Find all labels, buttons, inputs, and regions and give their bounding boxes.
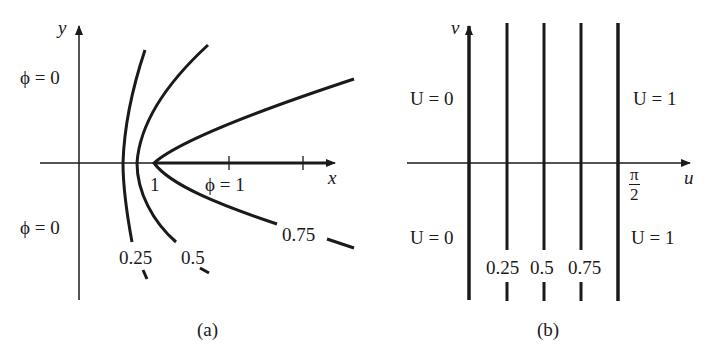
region-label-phi1: ϕ = 1 — [205, 175, 245, 194]
line-label-0.75: 0.75 — [568, 258, 601, 277]
line-label-0.5: 0.5 — [530, 258, 554, 277]
region-label-phi0-upper: ϕ = 0 — [20, 68, 60, 87]
u-axis-label: u — [684, 168, 694, 187]
curve-label-0.25: 0.25 — [119, 248, 152, 267]
y-axis-label: y — [58, 18, 66, 37]
figure-canvas — [0, 0, 712, 358]
curve-label-0.75: 0.75 — [282, 225, 315, 244]
region-label-U0-upper: U = 0 — [410, 89, 453, 108]
region-label-U1-upper: U = 1 — [633, 89, 676, 108]
x-axis-label: x — [328, 168, 336, 187]
level-curve-0.5 — [137, 45, 208, 242]
level-curve-0.25 — [123, 50, 145, 242]
level-curve-0.25-tail — [143, 270, 147, 279]
level-curve-0.75 — [154, 79, 354, 224]
v-axis-label: v — [451, 18, 459, 37]
caption-b: (b) — [537, 320, 559, 339]
level-curve-0.75-tail — [327, 239, 354, 248]
u-tick-pi-over-2: π 2 — [629, 166, 640, 203]
tick-denominator: 2 — [629, 185, 640, 203]
caption-a: (a) — [197, 320, 218, 339]
region-label-U0-lower: U = 0 — [410, 228, 453, 247]
line-label-0.25: 0.25 — [486, 258, 519, 277]
level-curve-0.5-tail — [200, 268, 209, 273]
region-label-phi0-lower: ϕ = 0 — [20, 218, 60, 237]
vertex-label: 1 — [150, 175, 160, 194]
curve-label-0.5: 0.5 — [181, 248, 205, 267]
region-label-U1-lower: U = 1 — [631, 228, 674, 247]
tick-numerator: π — [629, 166, 640, 185]
